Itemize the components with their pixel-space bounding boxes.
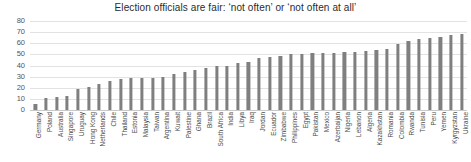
bar-slot (318, 21, 329, 110)
x-axis-tick: Brazil (201, 112, 212, 162)
bar-slot (424, 21, 435, 110)
bar-slot (264, 21, 275, 110)
bar (98, 84, 101, 110)
bar-slot (403, 21, 414, 110)
bar (353, 52, 356, 110)
bar (34, 104, 37, 110)
y-axis-tick-label: 60 (17, 40, 25, 48)
bar (258, 58, 261, 110)
x-axis-tick: Germany (30, 112, 41, 162)
bar (290, 54, 293, 110)
bar-series (30, 21, 467, 110)
bar-slot (147, 21, 158, 110)
bar (140, 78, 143, 110)
y-axis-tick-label: 50 (17, 51, 25, 59)
bar-slot (254, 21, 265, 110)
y-axis-tick-label: 10 (17, 95, 25, 103)
x-axis-tick: Ukraine (456, 112, 467, 162)
x-axis-tick: South Africa (211, 112, 222, 162)
bar (300, 54, 303, 110)
x-axis-tick: Singapore (62, 112, 73, 162)
bar (268, 57, 271, 110)
bar (204, 68, 207, 110)
bar-slot (51, 21, 62, 110)
bar-slot (360, 21, 371, 110)
bar-slot (83, 21, 94, 110)
axis-baseline (30, 110, 467, 111)
bar-slot (169, 21, 180, 110)
chart-title: Election officials are fair: ‘not often’… (0, 2, 471, 14)
bar-slot (115, 21, 126, 110)
y-axis-tick-label: 20 (17, 84, 25, 92)
bar (247, 62, 250, 110)
bar (322, 53, 325, 110)
bar (375, 50, 378, 110)
bar (183, 72, 186, 110)
bar-slot (179, 21, 190, 110)
bar-slot (382, 21, 393, 110)
bar (417, 39, 420, 110)
bar-slot (446, 21, 457, 110)
bar-slot (456, 21, 467, 110)
bar (460, 34, 463, 110)
bar (311, 53, 314, 110)
x-axis-tick: Hong Kong (83, 112, 94, 162)
bar-slot (233, 21, 244, 110)
bar-slot (222, 21, 233, 110)
x-axis-tick: Romania (382, 112, 393, 162)
y-axis-tick-label: 80 (17, 17, 25, 25)
bar-slot (286, 21, 297, 110)
bar (44, 98, 47, 110)
x-axis-tick: Australia (51, 112, 62, 162)
bar (108, 81, 111, 110)
bar-slot (414, 21, 425, 110)
bar (332, 53, 335, 110)
bar (428, 38, 431, 110)
bar (439, 37, 442, 110)
bar (236, 63, 239, 110)
bar-slot (243, 21, 254, 110)
x-axis-tick: Libya (233, 112, 244, 162)
bar-slot (392, 21, 403, 110)
x-axis-tick: Zimbabwe (275, 112, 286, 162)
bar (172, 74, 175, 110)
bar (151, 78, 154, 110)
bar-slot (62, 21, 73, 110)
x-axis-tick: Rwanda (403, 112, 414, 162)
x-axis-tick: Chile (105, 112, 116, 162)
x-axis-tick: Algeria (360, 112, 371, 162)
bar (396, 44, 399, 110)
x-axis-labels: GermanyPolandAustraliaSingaporeUruguayHo… (30, 112, 467, 162)
x-axis-tick: Azerbaijan (328, 112, 339, 162)
x-axis-tick: Mexico (318, 112, 329, 162)
bar (55, 97, 58, 110)
x-axis-tick: India (222, 112, 233, 162)
bar (87, 87, 90, 110)
bar (162, 77, 165, 110)
x-axis-tick: Ghana (190, 112, 201, 162)
x-axis-tick: Jordan (254, 112, 265, 162)
x-axis-tick: Peru (424, 112, 435, 162)
bar-slot (30, 21, 41, 110)
x-axis-tick: Iraq (243, 112, 254, 162)
x-axis-tick: Lebanon (350, 112, 361, 162)
bar-slot (350, 21, 361, 110)
bar (385, 49, 388, 110)
bar (279, 56, 282, 111)
x-axis-tick: Netherlands (94, 112, 105, 162)
x-axis-tick: Kyrgyzstan (446, 112, 457, 162)
bar-slot (201, 21, 212, 110)
bar (343, 52, 346, 110)
bar-slot (435, 21, 446, 110)
y-axis-tick-label: 0 (21, 106, 25, 114)
bar-slot (275, 21, 286, 110)
bar-slot (73, 21, 84, 110)
bar-chart: Election officials are fair: ‘not often’… (0, 0, 471, 162)
x-axis-tick: Philippines (286, 112, 297, 162)
bar (449, 35, 452, 110)
bar-slot (126, 21, 137, 110)
bar (407, 41, 410, 110)
x-axis-tick: Malaysia (137, 112, 148, 162)
x-axis-tick: Kuwait (169, 112, 180, 162)
bar-slot (105, 21, 116, 110)
